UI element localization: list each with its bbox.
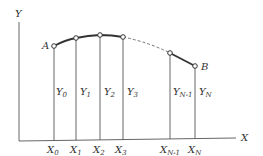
curve-point — [168, 51, 173, 56]
ordinate-label: Y0 — [56, 86, 68, 99]
ordinate-label: YN-1 — [173, 86, 193, 99]
curve-point — [74, 36, 79, 41]
ordinate-label: Y2 — [104, 86, 116, 99]
point-label-b: B — [200, 61, 208, 72]
curve-point — [193, 64, 198, 69]
abscissa-label: X0 — [46, 144, 59, 156]
curve-points — [52, 33, 198, 69]
x-axis — [19, 138, 236, 141]
abscissa-label: XN-1 — [159, 144, 180, 156]
curve-point — [98, 33, 103, 38]
abscissa-label: XN — [187, 144, 202, 156]
trapezoid-rule-diagram: Y X A B Y0Y1Y2Y3YN-1YN X0X1X2X3XN-1XN — [0, 0, 263, 156]
ordinate-labels: Y0Y1Y2Y3YN-1YN — [56, 86, 213, 99]
ordinate-label: Y3 — [127, 86, 139, 99]
abscissa-label: X3 — [114, 144, 127, 156]
x-axis-label: X — [240, 132, 249, 143]
abscissa-label: X1 — [69, 144, 82, 156]
curve-segment-solid-start — [54, 35, 123, 46]
curve-point — [121, 35, 126, 40]
curve-point — [52, 44, 57, 49]
abscissa-labels: X0X1X2X3XN-1XN — [46, 144, 202, 156]
ordinate-label: YN — [199, 86, 213, 99]
curve-segment-solid-end — [170, 53, 195, 66]
y-axis-label: Y — [15, 8, 23, 19]
curve-segment-dashed — [123, 37, 170, 53]
point-label-a: A — [41, 40, 49, 51]
ordinate-label: Y1 — [80, 86, 91, 99]
abscissa-label: X2 — [92, 144, 105, 156]
